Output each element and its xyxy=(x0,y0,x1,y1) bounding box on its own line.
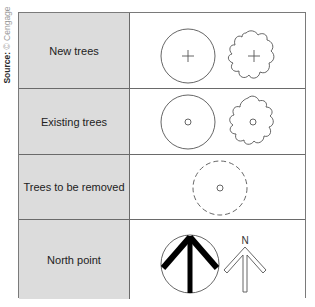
symbol-cell xyxy=(130,13,305,88)
row-label: New trees xyxy=(19,13,130,88)
existing-tree-circle-icon xyxy=(161,95,215,149)
north-letter: N xyxy=(241,235,248,246)
source-credit: Source: © Cengage xyxy=(0,0,14,90)
legend-row-trees-to-be-removed: Trees to be removed xyxy=(19,155,305,220)
tree-symbol-legend-table: New trees Existing trees xyxy=(18,12,306,298)
row-label: Existing trees xyxy=(19,89,130,154)
legend-row-existing-trees: Existing trees xyxy=(19,89,305,155)
removed-tree-dashed-circle-icon xyxy=(193,161,247,215)
north-arrow-circle-icon xyxy=(161,235,219,293)
north-arrow-outline-icon xyxy=(224,247,266,292)
symbol-cell xyxy=(130,155,305,219)
new-tree-circle-icon xyxy=(161,29,215,83)
new-tree-crown-icon xyxy=(228,31,274,78)
existing-tree-crown-icon xyxy=(230,96,274,144)
source-credit-text: © Cengage xyxy=(2,6,12,49)
source-label: Source: xyxy=(2,52,12,84)
legend-row-new-trees: New trees xyxy=(19,13,305,89)
symbol-cell xyxy=(130,89,305,154)
symbol-cell: N xyxy=(130,220,305,299)
row-label: North point xyxy=(19,220,130,299)
legend-row-north-point: North point N xyxy=(19,220,305,299)
row-label: Trees to be removed xyxy=(19,155,130,219)
